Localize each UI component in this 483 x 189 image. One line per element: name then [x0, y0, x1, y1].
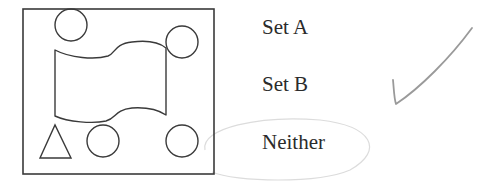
figure-canvas — [0, 0, 483, 189]
circle-shape-bottom-right — [166, 125, 198, 157]
circle-shape-top-left — [55, 9, 87, 41]
option-set-b[interactable]: Set B — [262, 74, 308, 95]
option-set-a[interactable]: Set A — [262, 17, 308, 38]
figure-frame — [23, 9, 214, 174]
banner-shape — [55, 41, 166, 122]
checkmark-icon — [393, 28, 472, 104]
circle-shape-top-right — [166, 26, 198, 58]
circle-shape-bottom-middle — [87, 125, 119, 157]
option-neither[interactable]: Neither — [262, 132, 325, 153]
triangle-shape — [40, 125, 71, 158]
